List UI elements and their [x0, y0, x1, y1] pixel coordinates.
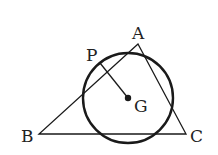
label-c: C — [190, 126, 203, 146]
segment-pg — [100, 63, 128, 98]
label-g: G — [134, 96, 148, 116]
triangle-abc — [39, 44, 186, 134]
geometry-diagram: A B C G P — [0, 0, 218, 155]
point-g-dot — [125, 95, 131, 101]
label-a: A — [131, 23, 145, 43]
label-p: P — [86, 45, 97, 65]
label-b: B — [21, 126, 34, 146]
